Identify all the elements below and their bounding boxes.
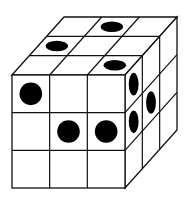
cube-diagram <box>0 0 189 199</box>
dot-right <box>129 111 139 134</box>
cube-svg <box>0 0 189 199</box>
dot-front <box>20 83 43 106</box>
dot-right <box>146 91 156 114</box>
dot-front <box>57 120 80 143</box>
dot-top <box>101 21 124 32</box>
dot-front <box>95 120 118 143</box>
dot-top <box>46 41 69 52</box>
dot-top <box>104 60 127 71</box>
dot-right <box>129 73 139 96</box>
